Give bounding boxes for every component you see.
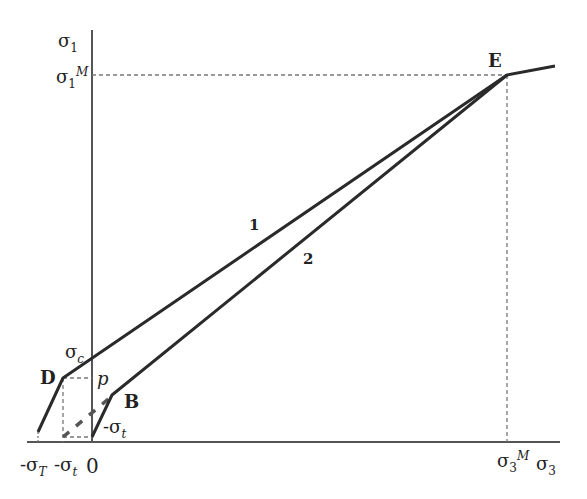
sigma-c-label: σc bbox=[65, 343, 84, 365]
sigma1-M-tick-label: σ1M bbox=[56, 66, 88, 90]
neg-sigma-t-y-label: -σt bbox=[103, 418, 126, 440]
envelope-line-2 bbox=[92, 75, 507, 437]
origin-label: 0 bbox=[86, 456, 99, 476]
line-1-label: 1 bbox=[249, 218, 259, 233]
envelope-line-1 bbox=[38, 66, 555, 432]
neg-sigma-t-x-label: -σt bbox=[54, 456, 77, 478]
point-B-label: B bbox=[124, 393, 139, 411]
sigma3-M-tick-label: σ3M bbox=[497, 450, 529, 474]
y-axis-label: σ1 bbox=[58, 32, 78, 54]
x-axis-label: σ3 bbox=[536, 455, 556, 477]
point-D-label: D bbox=[40, 369, 56, 387]
neg-sigma-T-label: -σT bbox=[20, 456, 46, 478]
point-p-label: p bbox=[97, 370, 109, 388]
point-E-label: E bbox=[488, 52, 502, 70]
line-2-label: 2 bbox=[303, 252, 313, 267]
